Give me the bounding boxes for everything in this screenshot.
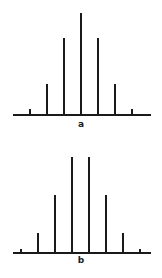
panel-label-b: b bbox=[78, 256, 84, 265]
bar-b-7 bbox=[139, 249, 141, 252]
bar-b-6 bbox=[122, 233, 124, 252]
bar-b-3 bbox=[71, 157, 73, 252]
bar-b-4 bbox=[88, 157, 90, 252]
bar-b-2 bbox=[54, 195, 56, 252]
bar-b-1 bbox=[37, 233, 39, 252]
bar-b-5 bbox=[105, 195, 107, 252]
baseline-b bbox=[13, 252, 151, 254]
chart-panel-b: b bbox=[0, 0, 162, 278]
bar-b-0 bbox=[20, 249, 22, 252]
